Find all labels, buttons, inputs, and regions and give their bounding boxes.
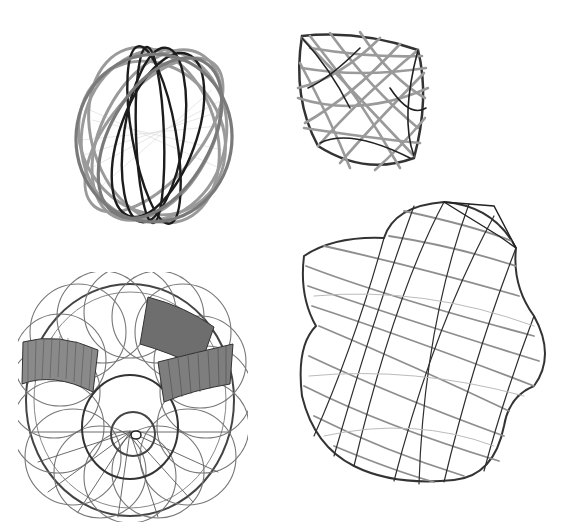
twisted-tube-render: [294, 196, 559, 488]
ribbon-band-right: [140, 297, 233, 402]
egg-cage-render: [62, 30, 247, 240]
twisted-tube-figure: [294, 196, 559, 488]
torus-lattice-render: [18, 272, 248, 522]
cushion-cage-figure: [290, 28, 440, 188]
egg-cage-figure: [62, 30, 247, 240]
ribbon-band-left: [22, 336, 98, 392]
torus-lattice-figure: [18, 272, 248, 522]
cushion-cage-render: [290, 28, 440, 188]
